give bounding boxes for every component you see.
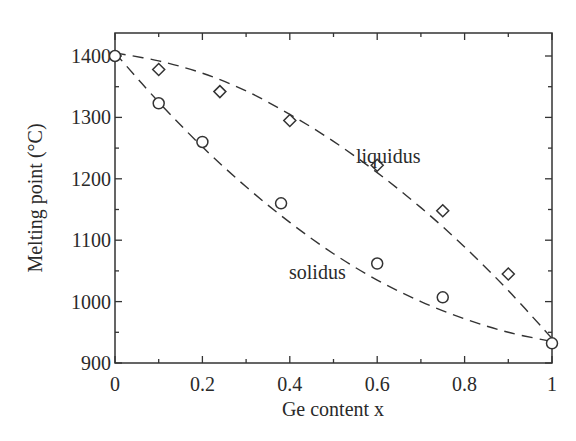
y-tick-label: 1000 <box>71 291 111 313</box>
plot-area <box>115 33 552 363</box>
liquidus-diamond-marker <box>502 268 514 280</box>
x-axis-title: Ge content x <box>282 398 384 420</box>
solidus-circle-marker <box>153 98 164 109</box>
y-tick-label: 1200 <box>71 168 111 190</box>
solidus-circle-marker <box>437 292 448 303</box>
liquidus-diamond-marker <box>284 114 296 126</box>
liquidus-diamond-marker <box>153 64 165 76</box>
liquidus-diamond-marker <box>214 86 226 98</box>
solidus-circle-marker <box>197 136 208 147</box>
x-tick-label: 0.2 <box>190 373 215 395</box>
liquidus-annotation: liquidus <box>356 145 421 168</box>
solidus-annotation: solidus <box>289 261 346 283</box>
solidus-circle-marker <box>372 258 383 269</box>
x-tick-label: 1 <box>547 373 557 395</box>
plot-frame <box>115 33 552 363</box>
solidus-fit-curve <box>115 53 552 342</box>
fit-curves <box>115 53 552 342</box>
melting-point-chart: 00.20.40.60.8190010001100120013001400 Ge… <box>0 0 576 441</box>
x-tick-label: 0.6 <box>365 373 390 395</box>
y-axis-title: Melting point (°C) <box>24 123 47 272</box>
data-markers <box>110 51 558 349</box>
axis-ticks <box>115 33 552 363</box>
liquidus-fit-curve <box>115 53 552 339</box>
axis-tick-labels: 00.20.40.60.8190010001100120013001400 <box>71 45 557 395</box>
y-tick-label: 900 <box>81 352 111 374</box>
x-tick-label: 0.8 <box>452 373 477 395</box>
solidus-circle-marker <box>276 198 287 209</box>
x-tick-label: 0 <box>110 373 120 395</box>
y-tick-label: 1300 <box>71 106 111 128</box>
liquidus-diamond-marker <box>437 205 449 217</box>
y-tick-label: 1400 <box>71 45 111 67</box>
x-tick-label: 0.4 <box>277 373 302 395</box>
solidus-circle-marker <box>110 51 121 62</box>
solidus-circle-marker <box>547 338 558 349</box>
y-tick-label: 1100 <box>72 229 111 251</box>
